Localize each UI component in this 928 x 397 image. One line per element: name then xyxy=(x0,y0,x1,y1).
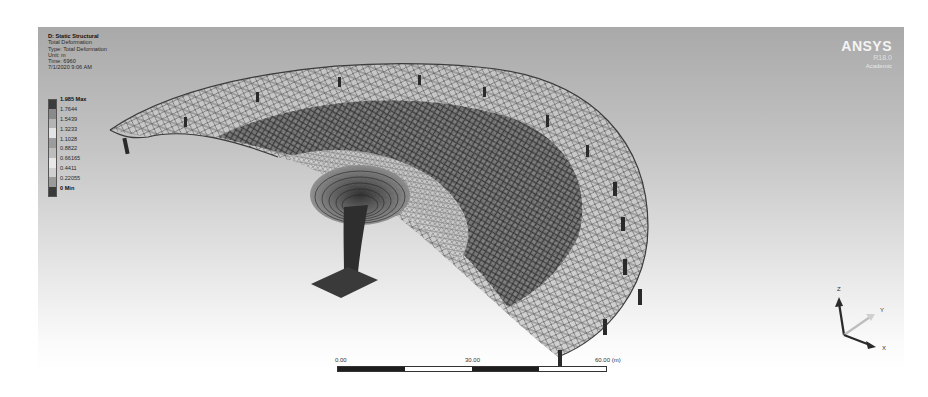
edition-label: Academic xyxy=(841,62,892,70)
base-plate xyxy=(311,267,378,298)
legend-label: 1.3233 xyxy=(60,126,77,132)
scale-segment xyxy=(472,367,539,371)
scale-track xyxy=(337,366,607,372)
result-info-panel: D: Static Structural Total Deformation T… xyxy=(48,33,107,71)
legend-swatch xyxy=(48,187,57,197)
legend-swatch xyxy=(48,119,57,129)
scale-label-0: 0.00 xyxy=(335,357,347,363)
scale-label-30: 30.00 xyxy=(465,357,480,363)
legend-swatch xyxy=(48,99,57,109)
y-axis-label: Y xyxy=(880,307,884,313)
legend-label: 0.4411 xyxy=(60,165,77,171)
legend-swatch xyxy=(48,158,57,168)
legend-label: 0.8822 xyxy=(60,145,77,151)
z-axis-label: Z xyxy=(837,286,841,292)
ansys-logo: ANSYS R18.0 Academic xyxy=(841,39,892,70)
scale-bar: 0.00 30.00 60.00 (m) 15.00 45.00 xyxy=(337,357,607,372)
legend-max-label: 1.985 Max xyxy=(60,96,86,102)
legend-row: 0 Min xyxy=(48,187,86,197)
triad-arrows-icon xyxy=(828,283,898,353)
brand-name: ANSYS xyxy=(841,39,892,53)
graphics-viewport[interactable]: D: Static Structural Total Deformation T… xyxy=(38,27,904,372)
legend-label: 1.7644 xyxy=(60,106,77,112)
x-axis-label: X xyxy=(882,345,886,351)
legend-swatch xyxy=(48,168,57,178)
scale-segment xyxy=(338,367,405,371)
legend-swatch xyxy=(48,109,57,119)
scale-segment xyxy=(405,367,472,371)
legend-label: 1.5439 xyxy=(60,116,77,122)
release-label: R18.0 xyxy=(841,53,892,62)
result-timestamp: 7/1/2020 9:06 AM xyxy=(48,64,107,70)
legend-swatch xyxy=(48,138,57,148)
deformed-shell-structure-model[interactable] xyxy=(38,27,904,372)
legend-label: 0.66165 xyxy=(60,155,80,161)
contour-legend[interactable]: 1.985 Max 1.7644 1.5439 1.3233 1.1028 0.… xyxy=(48,99,86,197)
scale-segment xyxy=(539,367,606,371)
support-column xyxy=(344,205,368,275)
legend-min-label: 0 Min xyxy=(60,185,74,191)
legend-swatch xyxy=(48,148,57,158)
legend-swatch xyxy=(48,128,57,138)
legend-label: 0.22055 xyxy=(60,175,80,181)
axis-triad[interactable]: Z Y X xyxy=(828,283,898,353)
legend-label: 1.1028 xyxy=(60,136,77,142)
scale-label-60: 60.00 (m) xyxy=(595,357,621,363)
legend-swatch xyxy=(48,177,57,187)
result-type: Type: Total Deformation xyxy=(48,46,107,52)
